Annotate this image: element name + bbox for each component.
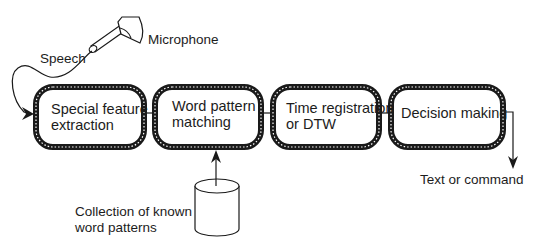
database-label-line1: Collection of known (75, 204, 192, 220)
speech-label: Speech (40, 51, 86, 67)
database-cylinder-icon (195, 179, 239, 236)
stage-2-line1: Word pattern (172, 98, 256, 115)
speech-arrowhead (22, 107, 34, 120)
stage-3-line1: Time registration (286, 100, 393, 117)
microphone-label: Microphone (148, 32, 219, 48)
stage-2-line2: matching (172, 114, 231, 131)
database-label-line2: word patterns (75, 220, 157, 236)
stage-1-line1: Special feature (51, 101, 148, 118)
stage-4-line1: Decision making (401, 105, 507, 122)
microphone-icon (88, 17, 143, 54)
output-label: Text or command (420, 172, 524, 188)
stage-1-line2: extraction (51, 117, 114, 134)
stage-3-line2: or DTW (286, 116, 336, 133)
